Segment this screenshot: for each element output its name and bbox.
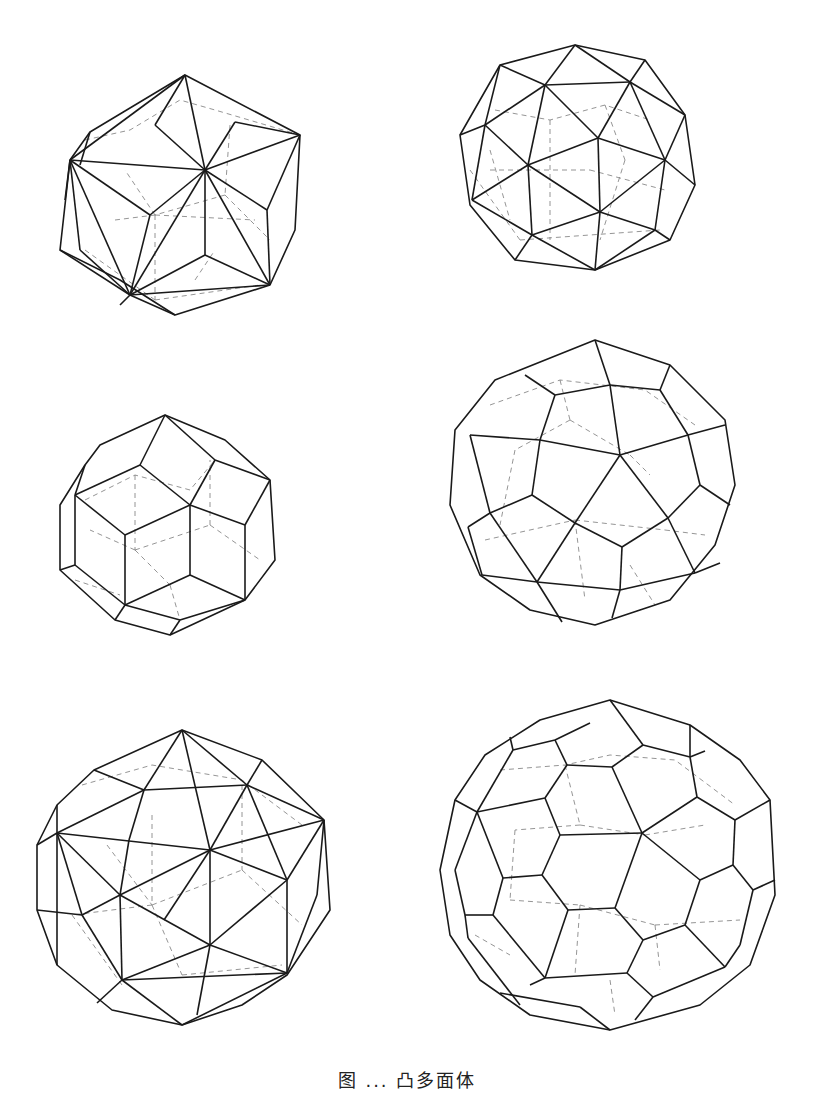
polyhedron-4-wireframe bbox=[440, 335, 740, 630]
polyhedron-6-wireframe bbox=[435, 695, 780, 1035]
polyhedron-1-wireframe bbox=[55, 70, 305, 335]
polyhedron-panel-2 bbox=[450, 40, 700, 275]
polyhedron-5-wireframe bbox=[32, 725, 332, 1030]
figure-caption: 图 ... 凸多面体 bbox=[0, 1066, 814, 1093]
polyhedron-2-wireframe bbox=[450, 40, 700, 275]
polyhedron-panel-5 bbox=[32, 725, 332, 1030]
polyhedron-panel-4 bbox=[440, 335, 740, 630]
polyhedron-panel-6 bbox=[435, 695, 780, 1035]
polyhedron-3-wireframe bbox=[55, 410, 280, 640]
polyhedron-panel-3 bbox=[55, 410, 280, 640]
polyhedron-panel-1 bbox=[55, 70, 305, 335]
